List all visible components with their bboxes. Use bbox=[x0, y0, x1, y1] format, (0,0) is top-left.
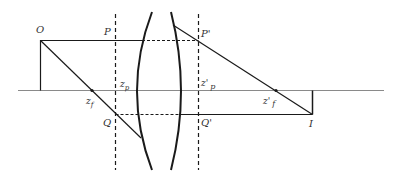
label-zf: zf bbox=[85, 96, 95, 109]
back-focus-point bbox=[274, 89, 277, 92]
ray-back-focus bbox=[173, 25, 313, 115]
label-zf-prime: z'f bbox=[262, 96, 277, 108]
front-focus-point bbox=[90, 89, 93, 92]
label-zp-prime: z'p bbox=[200, 78, 215, 91]
label-P: P bbox=[103, 26, 111, 37]
label-P-prime: P' bbox=[200, 28, 210, 39]
ray-diagram: O P P' zp z'p zf z'f Q Q' I bbox=[0, 0, 399, 178]
label-Q: Q bbox=[103, 117, 111, 128]
label-object: O bbox=[36, 24, 44, 35]
label-image: I bbox=[308, 118, 314, 129]
label-Q-prime: Q' bbox=[201, 117, 212, 128]
